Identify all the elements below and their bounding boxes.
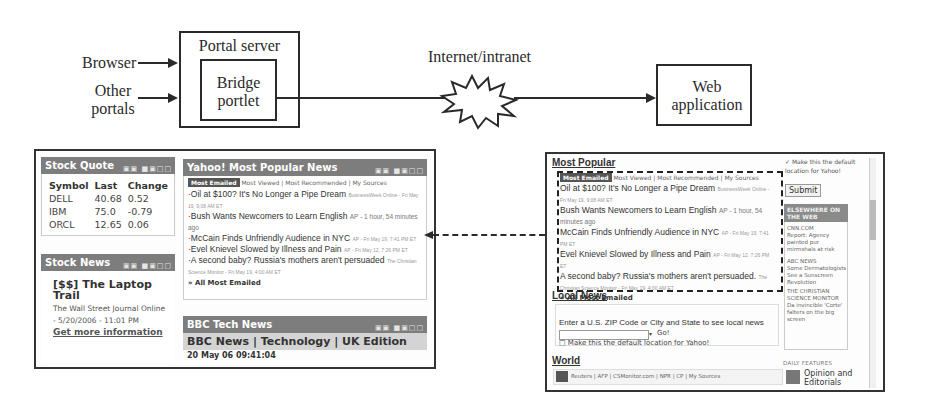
- other-portals-arrow: [138, 97, 170, 99]
- list-item: ·Oil at $100? It's No Longer a Pipe Drea…: [188, 189, 422, 211]
- browser-label: Browser: [82, 54, 136, 72]
- elsewhere-source: CNN.COM: [787, 225, 847, 232]
- sidebar-default-location[interactable]: ✓ Make this the default location for Yah…: [785, 157, 865, 175]
- dashed-arrowhead-icon: [424, 231, 433, 239]
- scrollbar-thumb[interactable]: [870, 200, 876, 240]
- daily-features-label: DAILY FEATURES: [783, 360, 832, 366]
- bbc-subtitle[interactable]: BBC News | Technology | UK Edition: [183, 333, 427, 350]
- default-location-label: Make this the default location for Yahoo…: [568, 339, 710, 347]
- yahoo-news-tabs: Most Emailed Most Viewed | Most Recommen…: [188, 179, 422, 186]
- most-popular-tabs: Most Emailed Most Viewed | Most Recommen…: [560, 174, 775, 181]
- stock-quote-table: Symbol Last Change DELL 40.68 0.52 IBM 7…: [49, 179, 174, 231]
- news-headline-link[interactable]: McCain Finds Unfriendly Audience in NYC: [191, 233, 350, 243]
- tab-most-emailed[interactable]: Most Emailed: [560, 173, 612, 182]
- list-item: Oil at $100? It's No Longer a Pipe Dream…: [560, 183, 775, 205]
- cell-symbol: ORCL: [49, 218, 95, 231]
- news-headline-link[interactable]: Oil at $100? It's No Longer a Pipe Dream: [560, 183, 715, 193]
- yahoo-news-title: Yahoo! Most Popular News: [187, 162, 337, 173]
- network-cloud-icon: [438, 74, 520, 130]
- bridge-portlet-box: Bridge portlet: [200, 59, 277, 121]
- bridge-portlet-label: Bridge portlet: [206, 74, 271, 110]
- tab-most-emailed[interactable]: Most Emailed: [188, 178, 240, 187]
- table-row: ORCL 12.65 0.06: [49, 218, 174, 231]
- list-item: ·A second baby? Russia's mothers aren't …: [188, 255, 422, 277]
- web-app-screenshot: Most Popular Most Emailed Most Viewed | …: [545, 152, 885, 392]
- all-most-emailed-link[interactable]: » All Most Emailed: [188, 279, 422, 287]
- browser-arrowhead-icon: [168, 58, 178, 68]
- cell-change: 0.52: [128, 192, 174, 205]
- network-label: Internet/intranet: [428, 48, 531, 66]
- tab-most-recommended[interactable]: Most Recommended: [657, 174, 718, 181]
- yahoo-news-list: ·Oil at $100? It's No Longer a Pipe Drea…: [188, 189, 422, 287]
- elsewhere-header: ELSEWHERE ON THE WEB: [784, 204, 848, 222]
- news-headline-link[interactable]: McCain Finds Unfriendly Audience in NYC: [560, 227, 719, 237]
- portal-server-box: Portal server Bridge portlet: [179, 31, 300, 128]
- dashed-connector: [433, 234, 545, 236]
- news-headline-link[interactable]: A second baby? Russia's mothers aren't p…: [191, 255, 385, 265]
- bbc-title: BBC Tech News: [187, 319, 272, 330]
- scrollbar[interactable]: [869, 158, 876, 388]
- table-row: DELL 40.68 0.52: [49, 192, 174, 205]
- opinion-thumbnail-icon: [786, 370, 800, 384]
- stock-quote-body: Symbol Last Change DELL 40.68 0.52 IBM 7…: [41, 174, 175, 236]
- dropdown-arrow-icon[interactable]: ▾: [649, 329, 652, 338]
- elsewhere-source: THE CHRISTIAN SCIENCE MONITOR: [787, 288, 847, 302]
- most-popular-title: Most Popular: [552, 157, 615, 168]
- cell-symbol: DELL: [49, 192, 95, 205]
- col-change: Change: [128, 179, 174, 192]
- browser-arrow: [138, 62, 170, 64]
- list-item: ·Evel Knievel Slowed by Illness and Pain…: [188, 244, 422, 255]
- stock-news-header: Stock News ▣▣ ■▣□□: [41, 254, 175, 271]
- stock-quote-header: Stock Quote ▣▣ ■▣□□: [41, 157, 175, 174]
- sidebar-default-label: Make this the default location for Yahoo…: [785, 158, 855, 174]
- list-item: ·McCain Finds Unfriendly Audience in NYC…: [188, 233, 422, 244]
- cell-last: 75.0: [95, 205, 128, 218]
- stock-quote-title: Stock Quote: [45, 160, 114, 171]
- elsewhere-item: CNN.COM Report: Agency painted pur mirms…: [787, 225, 847, 253]
- opinion-editorials-link[interactable]: Opinion and Editorials: [804, 369, 856, 387]
- world-title: World: [552, 355, 580, 366]
- news-headline-link[interactable]: Evel Knievel Slowed by Illness and Pain: [191, 244, 342, 254]
- elsewhere-link[interactable]: Some Dermatologists See a Sunscreen Revo…: [787, 265, 847, 286]
- tab-most-recommended[interactable]: Most Recommended: [285, 179, 346, 186]
- world-tab-icon: [556, 371, 568, 382]
- list-item: Bush Wants Newcomers to Learn English AP…: [560, 205, 775, 227]
- col-last: Last: [95, 179, 128, 192]
- elsewhere-item: THE CHRISTIAN SCIENCE MONITOR Da invinci…: [787, 288, 847, 323]
- news-headline-link[interactable]: A second baby? Russia's mothers aren't p…: [560, 271, 756, 281]
- go-button[interactable]: Go!: [657, 329, 670, 338]
- submit-button[interactable]: Submit: [785, 184, 821, 197]
- stock-news-source: The Wall Street Journal Online - 5/20/20…: [53, 303, 167, 327]
- most-popular-list: Oil at $100? It's No Longer a Pipe Dream…: [560, 183, 775, 302]
- yahoo-news-header: Yahoo! Most Popular News ▣▣ ■▣□□: [183, 159, 427, 176]
- elsewhere-source: ABC NEWS: [787, 258, 847, 265]
- tab-my-sources[interactable]: My Sources: [352, 179, 386, 186]
- web-application-box: Web application: [656, 64, 752, 126]
- other-portals-arrowhead-icon: [168, 93, 178, 103]
- news-headline-link[interactable]: Bush Wants Newcomers to Learn English: [560, 205, 717, 215]
- list-item: Evel Knievel Slowed by Illness and Pain …: [560, 249, 775, 271]
- cell-change: 0.06: [128, 218, 174, 231]
- web-application-label: Web application: [658, 78, 750, 114]
- cell-last: 40.68: [95, 192, 128, 205]
- world-tab-list[interactable]: Reuters | AFP | CSMonitor.com | NPR | CP…: [571, 373, 720, 379]
- news-headline-link[interactable]: Oil at $100? It's No Longer a Pipe Dream: [191, 189, 346, 199]
- news-headline-link[interactable]: Evel Knievel Slowed by Illness and Pain: [560, 249, 711, 259]
- elsewhere-item: ABC NEWS Some Dermatologists See a Sunsc…: [787, 258, 847, 286]
- stock-news-body: [$$] The Laptop Trail The Wall Street Jo…: [41, 271, 175, 363]
- stock-news-headline[interactable]: [$$] The Laptop Trail: [53, 279, 167, 301]
- world-tabs: Reuters | AFP | CSMonitor.com | NPR | CP…: [553, 369, 783, 385]
- tab-my-sources[interactable]: My Sources: [724, 174, 758, 181]
- get-more-information-link[interactable]: Get more information: [53, 327, 167, 338]
- news-meta: AP - Fri May 19, 7:41 PM ET: [352, 236, 416, 242]
- default-location-checkbox[interactable]: □ Make this the default location for Yah…: [559, 339, 709, 348]
- elsewhere-link[interactable]: Da invincible 'Corte' falters on the big…: [787, 302, 847, 323]
- tab-most-viewed[interactable]: Most Viewed: [613, 174, 651, 181]
- tab-most-viewed[interactable]: Most Viewed: [241, 179, 279, 186]
- news-headline-link[interactable]: Bush Wants Newcomers to Learn English: [191, 211, 348, 221]
- network-to-webapp-line: [514, 97, 648, 99]
- yahoo-news-body: Most Emailed Most Viewed | Most Recommen…: [183, 176, 427, 300]
- bbc-timestamp: 20 May 06 09:41:04: [187, 351, 276, 360]
- elsewhere-link[interactable]: Report: Agency painted pur mirmshals at …: [787, 232, 847, 253]
- news-meta: AP - Fri May 12, 7:26 PM ET: [344, 247, 408, 253]
